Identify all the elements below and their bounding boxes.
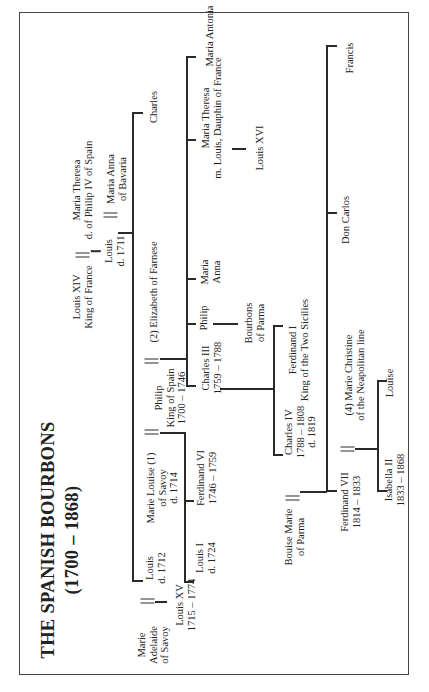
marriage-symbol	[286, 496, 300, 501]
marriage-symbol	[145, 359, 159, 364]
marriage-symbol	[341, 447, 355, 452]
marriage-symbol	[104, 213, 118, 218]
descent-line	[160, 432, 185, 434]
descent-line	[232, 148, 246, 150]
sibling-line	[377, 380, 379, 491]
title-dates: (1700 – 1868)	[60, 422, 84, 659]
sibling-tick	[326, 212, 337, 214]
sibling-tick	[326, 45, 337, 47]
title-main: THE SPANISH BOURBONS	[36, 422, 60, 659]
sibling-tick	[273, 454, 283, 456]
sibling-line	[326, 45, 328, 492]
descent-line	[118, 232, 132, 234]
sibling-tick	[186, 323, 196, 325]
sibling-tick	[132, 580, 143, 582]
sibling-line	[132, 112, 134, 582]
sibling-tick	[184, 500, 194, 502]
sibling-tick	[184, 581, 194, 583]
sibling-tick	[186, 56, 196, 58]
descent-line	[155, 601, 167, 603]
sibling-tick	[186, 278, 196, 280]
descent-line	[300, 491, 327, 493]
descent-line	[220, 388, 274, 390]
marriage-symbol	[141, 599, 155, 604]
descent-line	[213, 323, 238, 325]
marriage-symbol	[145, 430, 159, 435]
descent-line	[160, 358, 186, 360]
sibling-line	[273, 325, 275, 455]
sibling-line	[184, 432, 186, 582]
descent-line	[355, 448, 378, 450]
descent-line	[91, 250, 101, 252]
sibling-tick	[186, 139, 196, 141]
sibling-tick	[186, 385, 196, 387]
sibling-tick	[132, 112, 143, 114]
sibling-tick	[273, 325, 283, 327]
marriage-symbol	[76, 253, 90, 258]
sibling-tick	[326, 490, 337, 492]
sibling-line	[186, 56, 188, 386]
